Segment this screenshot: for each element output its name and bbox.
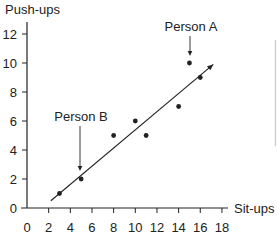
data-points — [57, 61, 203, 196]
y-tick-label: 4 — [10, 143, 17, 158]
y-tick-label: 10 — [3, 56, 17, 71]
x-tick-label: 14 — [171, 220, 185, 235]
data-point — [198, 75, 203, 80]
x-tick-label: 8 — [110, 220, 117, 235]
data-point — [79, 177, 84, 182]
scatter-chart: 024681012141618024681012 Person APerson … — [0, 0, 277, 246]
annotations: Person APerson B — [54, 19, 217, 171]
y-tick-label: 0 — [10, 201, 17, 216]
data-point — [57, 191, 62, 196]
x-tick-label: 0 — [23, 220, 30, 235]
x-tick-label: 2 — [45, 220, 52, 235]
annotation-label: Person B — [54, 109, 107, 124]
data-point — [187, 61, 192, 66]
x-tick-label: 4 — [67, 220, 74, 235]
annotation-label: Person A — [165, 19, 218, 34]
y-tick-label: 8 — [10, 85, 17, 100]
x-tick-label: 18 — [215, 220, 229, 235]
x-tick-label: 16 — [193, 220, 207, 235]
data-point — [176, 104, 181, 109]
x-tick-label: 12 — [150, 220, 164, 235]
data-point — [111, 133, 116, 138]
axes — [21, 22, 228, 208]
y-tick-label: 6 — [10, 114, 17, 129]
x-axis-label: Sit-ups — [234, 201, 275, 216]
arrow-down-icon — [188, 51, 193, 56]
data-point — [133, 119, 138, 124]
axis-ticks: 024681012141618024681012 — [3, 27, 230, 236]
x-tick-label: 10 — [128, 220, 142, 235]
y-axis-label: Push-ups — [5, 2, 60, 17]
trend-line — [51, 64, 213, 200]
y-tick-label: 12 — [3, 27, 17, 42]
data-point — [144, 133, 149, 138]
arrow-down-icon — [78, 166, 83, 171]
x-tick-label: 6 — [88, 220, 95, 235]
y-tick-label: 2 — [10, 172, 17, 187]
